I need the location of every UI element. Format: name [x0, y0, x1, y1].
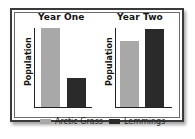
- legend-item-arctic-grass: Arctic Grass: [40, 117, 103, 126]
- panel-title: Year Two: [117, 12, 163, 22]
- y-axis-line: [115, 28, 116, 108]
- x-axis-line: [115, 107, 172, 108]
- y-axis-line: [34, 28, 35, 108]
- y-axis-label: Population: [105, 37, 114, 86]
- legend-item-lemmings: Lemmings: [109, 117, 165, 126]
- bar-arctic-grass: [41, 28, 60, 107]
- legend: Arctic Grass Lemmings: [0, 117, 195, 127]
- legend-swatch: [109, 119, 120, 124]
- x-axis-line: [34, 107, 92, 108]
- bar-arctic-grass: [120, 41, 139, 107]
- legend-label: Lemmings: [124, 117, 165, 126]
- bar-lemmings: [145, 29, 164, 107]
- legend-label: Arctic Grass: [55, 117, 103, 126]
- legend-swatch: [40, 119, 51, 124]
- bar-lemmings: [67, 78, 86, 107]
- panel-title: Year One: [38, 12, 84, 22]
- y-axis-label: Population: [24, 37, 33, 86]
